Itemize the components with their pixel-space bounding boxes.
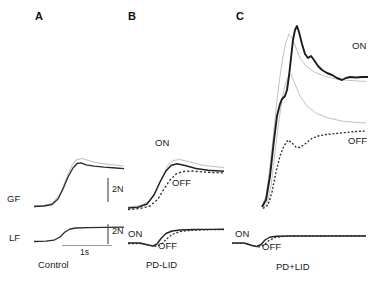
panel-letter-a: A — [35, 10, 43, 22]
panel-c-lf-on-label: ON — [235, 228, 249, 239]
panel-b-lf-on-label: ON — [128, 228, 142, 239]
panel-c-lf-off — [232, 236, 366, 248]
panel-letter-c: C — [236, 10, 244, 22]
panel-c-gf-off-label: OFF — [348, 135, 367, 146]
force-trace-figure: A B C GF LF 2N 2N 1s Control PD-LID PD+L… — [0, 0, 374, 283]
panel-a-gf-mean — [34, 163, 124, 207]
panel-b-lf-off-label: OFF — [158, 240, 177, 251]
panel-c-lf-off-label: OFF — [262, 241, 281, 252]
panel-c-gf-on — [262, 26, 368, 207]
panel-a-traces — [34, 159, 124, 246]
panel-b-gf-off-label: OFF — [172, 177, 191, 188]
panel-c-gf-on-label: ON — [352, 40, 366, 51]
panel-b-gf-on-label: ON — [155, 137, 169, 148]
lf-scale-label: 2N — [112, 226, 124, 236]
condition-label-pd-lid: PD-LID — [146, 259, 177, 270]
condition-label-pd-plus-lid: PD+LID — [276, 261, 310, 272]
panel-a-gf-band — [34, 159, 124, 207]
condition-label-control: Control — [38, 259, 69, 270]
row-label-lf: LF — [9, 232, 20, 243]
panel-b-traces — [128, 160, 224, 247]
panel-letter-b: B — [128, 10, 136, 22]
time-scale-label: 1s — [80, 247, 89, 257]
traces-canvas — [0, 0, 374, 283]
gf-scale-label: 2N — [112, 184, 124, 194]
panel-a-lf-mean — [34, 227, 124, 241]
row-label-gf: GF — [7, 193, 20, 204]
